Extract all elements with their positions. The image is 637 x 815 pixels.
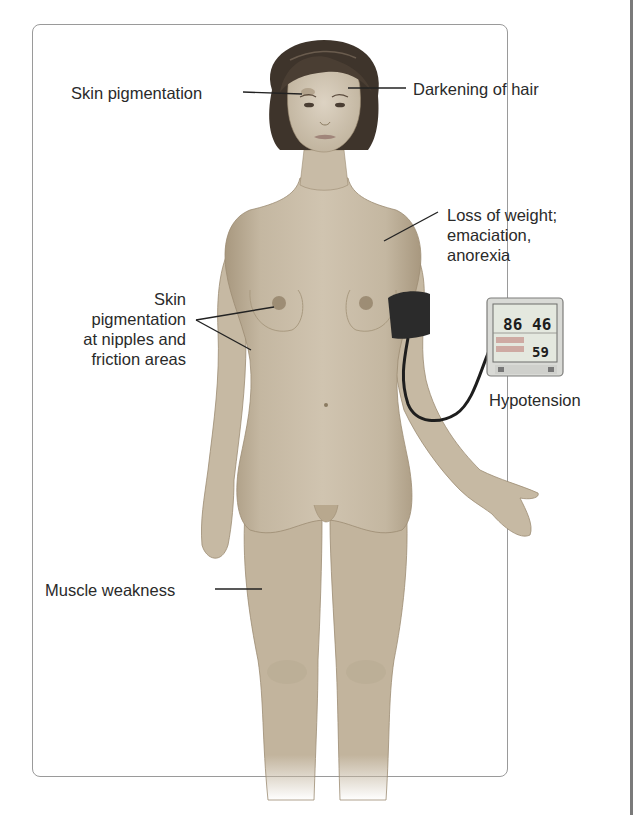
label-line: pigmentation [56, 309, 186, 329]
label-loss-of-weight: Loss of weight; emaciation, anorexia [447, 205, 557, 265]
label-line: Loss of weight; [447, 205, 557, 225]
nipple-pigmentation [272, 296, 286, 310]
neck [300, 150, 348, 190]
legs [244, 500, 407, 800]
nipple-pigmentation [359, 296, 373, 310]
bp-cuff [388, 291, 430, 338]
label-skin-pigmentation-nipples: Skin pigmentation at nipples and frictio… [56, 289, 186, 369]
label-skin-pigmentation-face: Skin pigmentation [71, 83, 202, 103]
label-line: Skin [56, 289, 186, 309]
label-line: friction areas [56, 349, 186, 369]
bp-monitor-bar [496, 346, 524, 352]
bp-systolic-value: 86 [503, 315, 522, 335]
label-line: emaciation, [447, 225, 557, 245]
label-hypotension: Hypotension [489, 390, 581, 410]
bp-monitor-bar [496, 337, 524, 343]
torso [225, 178, 421, 533]
bp-monitor [487, 298, 563, 376]
page: 86 46 59 Skin pigmentation Darkening of … [0, 0, 637, 815]
label-line: anorexia [447, 245, 557, 265]
label-muscle-weakness: Muscle weakness [45, 580, 175, 600]
label-line: at nipples and [56, 329, 186, 349]
label-darkening-of-hair: Darkening of hair [413, 79, 539, 99]
bp-diastolic-value: 46 [532, 315, 551, 335]
bp-pulse-value: 59 [532, 342, 549, 362]
